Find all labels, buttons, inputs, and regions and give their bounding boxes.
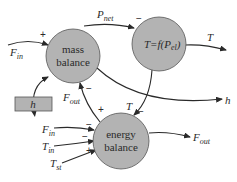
var-f-in-bottom: Fin: [41, 123, 55, 138]
edge-pnet-to-temp: [84, 24, 134, 28]
edge-energy-to-fout: [149, 133, 190, 138]
sign-tst-energy: +: [86, 145, 92, 156]
var-t-out: T: [207, 31, 214, 43]
sign-tin-energy: −: [82, 131, 88, 142]
var-t-mid: T: [126, 100, 133, 112]
mass-balance-label-2: balance: [56, 56, 90, 68]
sign-fin-energy: −: [86, 119, 92, 130]
energy-balance-label-2: balance: [104, 141, 138, 153]
edge-temp-to-t-out: [185, 45, 226, 50]
level-box-label: h: [30, 98, 36, 110]
sign-mass-energy: +: [98, 104, 104, 115]
node-temperature-function: T=f(Pel): [132, 17, 186, 71]
var-t-st: Tst: [50, 157, 62, 172]
sign-temp-energy: −: [138, 106, 144, 117]
var-f-out-mid: Fout: [62, 91, 81, 106]
mass-balance-label-1: mass: [62, 43, 84, 55]
node-mass-balance: mass balance: [46, 29, 100, 83]
var-t-in: Tin: [42, 140, 54, 155]
sign-pnet-temp: −: [136, 13, 142, 24]
var-p-net: Pnet: [96, 8, 114, 23]
var-f-out-bottom: Fout: [192, 131, 211, 146]
edge-fin-to-mass: [8, 42, 48, 46]
sign-fin-mass: +: [40, 29, 46, 40]
causal-loop-diagram: mass balance T=f(Pel) energy balance h F…: [0, 0, 237, 182]
node-energy-balance: energy balance: [93, 113, 149, 169]
energy-balance-label-1: energy: [106, 128, 136, 140]
edge-mass-to-h-out: [97, 68, 222, 101]
sign-fout-mass: −: [86, 83, 92, 94]
var-f-in-top: Fin: [9, 46, 23, 61]
level-box: h: [15, 97, 52, 111]
var-h-out: h: [225, 94, 231, 106]
